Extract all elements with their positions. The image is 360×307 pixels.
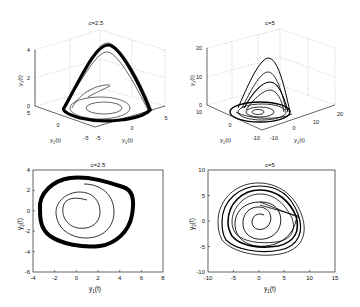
svg-text:10: 10 [196, 74, 202, 80]
svg-text:0: 0 [228, 122, 231, 128]
svg-text:-10: -10 [252, 135, 260, 141]
svg-text:0: 0 [257, 275, 261, 281]
trajectory-curve [218, 183, 304, 255]
svg-text:-5: -5 [200, 244, 206, 250]
plot-title: c=5 [265, 162, 276, 168]
svg-text:0: 0 [56, 122, 59, 128]
svg-text:0: 0 [27, 208, 31, 214]
svg-text:10: 10 [198, 167, 205, 173]
svg-text:-10: -10 [270, 135, 278, 141]
svg-text:-6: -6 [25, 269, 31, 275]
svg-text:2: 2 [27, 75, 30, 81]
svg-text:5: 5 [202, 193, 206, 199]
svg-text:5: 5 [283, 275, 287, 281]
panel-2d-c2-5: c=2.5 -4 -2 0 2 4 6 8 4 2 0 -2 -4 -6 y1(… [0, 150, 180, 307]
svg-text:-2: -2 [25, 228, 31, 234]
svg-text:20: 20 [196, 45, 202, 51]
plot-title: c=2.5 [91, 162, 107, 168]
panel-3d-c2-5: c=2.5 4 2 0 5 0 -5 -5 0 5 [0, 0, 180, 150]
svg-text:-5: -5 [231, 275, 237, 281]
y-axis-label: y2(t) [16, 218, 25, 230]
svg-text:0: 0 [75, 275, 79, 281]
x-tick-labels: -10 -5 0 5 10 15 [204, 275, 339, 281]
x-axis-label: y1(t) [122, 137, 133, 145]
svg-text:-10: -10 [204, 275, 213, 281]
y-axis-label: y2(t) [220, 137, 231, 145]
y-axis-label: y2(t) [50, 137, 61, 145]
svg-text:0: 0 [199, 102, 202, 108]
svg-text:5: 5 [27, 110, 30, 116]
plot-title: c=5 [265, 20, 276, 26]
svg-text:0: 0 [202, 218, 206, 224]
trajectory-curve [40, 178, 133, 247]
svg-text:0: 0 [292, 125, 295, 131]
svg-text:-4: -4 [25, 249, 31, 255]
svg-text:20: 20 [337, 111, 343, 117]
svg-text:-2: -2 [52, 275, 58, 281]
svg-text:4: 4 [27, 167, 31, 173]
x-tick-labels: -4 -2 0 2 4 6 8 [30, 275, 165, 281]
svg-text:10: 10 [196, 109, 202, 115]
y-tick-labels: 10 5 0 -5 -10 [196, 167, 205, 275]
svg-text:0: 0 [27, 103, 30, 109]
svg-text:10: 10 [313, 119, 319, 125]
x-axis-label: y1(t) [294, 137, 305, 145]
svg-text:2: 2 [96, 275, 100, 281]
attractor-curve [62, 43, 152, 121]
svg-text:8: 8 [161, 275, 165, 281]
svg-text:-5: -5 [96, 135, 101, 141]
axes-box [208, 170, 335, 272]
svg-text:6: 6 [140, 275, 144, 281]
svg-text:-5: -5 [84, 135, 89, 141]
z-tick-labels: 20 10 0 [196, 45, 202, 108]
svg-text:15: 15 [332, 275, 339, 281]
plot-title: c=2.5 [89, 20, 105, 26]
x-tick-labels: -10 0 10 20 [270, 111, 343, 141]
svg-text:-10: -10 [196, 269, 205, 275]
panel-3d-c5: c=5 20 10 0 10 0 -10 -10 0 [180, 0, 360, 150]
svg-text:10: 10 [306, 275, 313, 281]
svg-text:5: 5 [164, 115, 167, 121]
z-tick-labels: 4 2 0 [27, 47, 30, 109]
panel-2d-c5: c=5 -10 -5 0 5 10 15 10 5 0 -5 -10 y1(t)… [180, 150, 360, 307]
y-axis-label: y2(t) [188, 218, 197, 230]
svg-text:4: 4 [27, 47, 30, 53]
axes [35, 50, 165, 127]
svg-text:0: 0 [130, 125, 133, 131]
grid-lines [207, 29, 335, 105]
x-axis-label: y1(t) [89, 285, 101, 294]
svg-text:2: 2 [27, 187, 31, 193]
y-tick-labels: 4 2 0 -2 -4 -6 [25, 167, 31, 275]
svg-text:4: 4 [118, 275, 122, 281]
z-axis-label: y3(t) [17, 75, 25, 86]
axes [207, 48, 335, 130]
attractor-curve [230, 58, 292, 122]
x-axis-label: y1(t) [264, 285, 276, 294]
svg-text:-4: -4 [30, 275, 36, 281]
